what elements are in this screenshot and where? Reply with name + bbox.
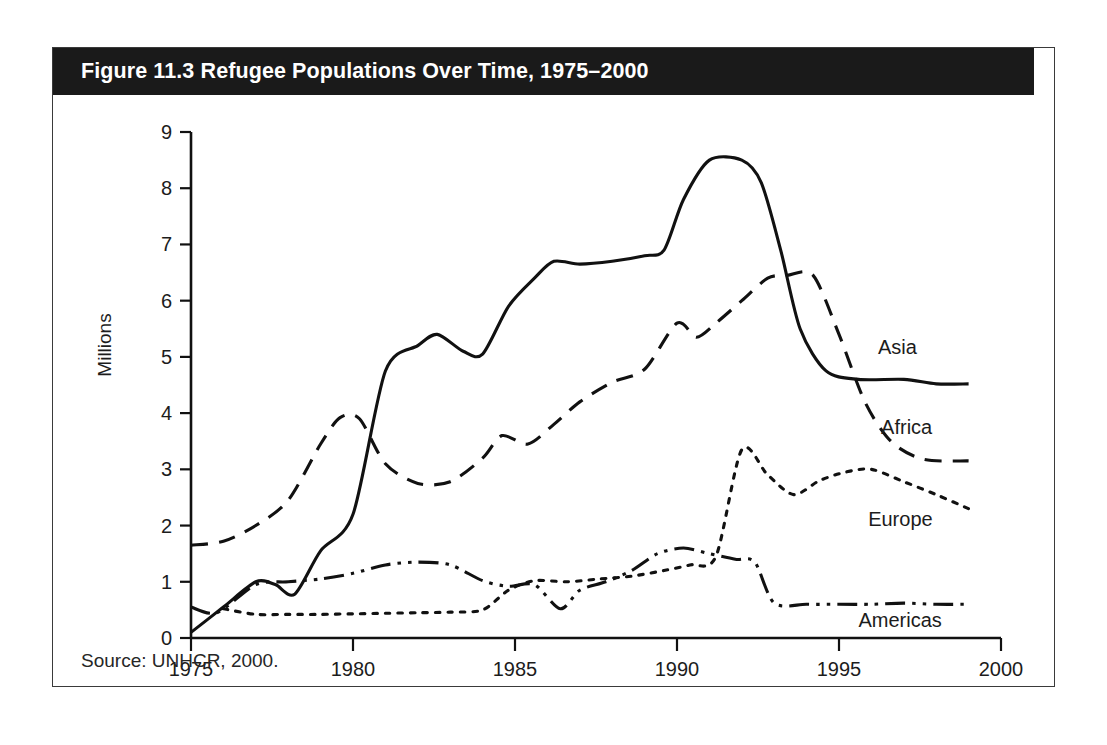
- x-tick-label: 1990: [655, 658, 700, 680]
- series-line-africa: [191, 272, 969, 546]
- chart-plot-area: 0123456789197519801985199019952000Millio…: [53, 95, 1056, 688]
- series-label-africa: Africa: [881, 416, 933, 438]
- y-tick-label: 2: [161, 515, 172, 537]
- series-line-europe: [223, 447, 968, 615]
- series-label-europe: Europe: [868, 508, 933, 530]
- axes-group: 0123456789197519801985199019952000Millio…: [94, 121, 1023, 680]
- y-tick-label: 1: [161, 571, 172, 593]
- y-tick-label: 5: [161, 346, 172, 368]
- x-tick-label: 1980: [331, 658, 376, 680]
- x-tick-label: 1995: [817, 658, 862, 680]
- y-tick-label: 8: [161, 177, 172, 199]
- series-label-americas: Americas: [858, 609, 941, 631]
- y-axis-title: Millions: [94, 313, 115, 376]
- source-note: Source: UNHCR, 2000.: [81, 650, 278, 672]
- series-group: [191, 157, 969, 633]
- figure-frame: Figure 11.3 Refugee Populations Over Tim…: [52, 47, 1055, 687]
- y-tick-label: 0: [161, 627, 172, 649]
- y-tick-label: 6: [161, 290, 172, 312]
- y-tick-label: 4: [161, 402, 172, 424]
- figure-page: Figure 11.3 Refugee Populations Over Tim…: [0, 0, 1107, 745]
- figure-title: Figure 11.3 Refugee Populations Over Tim…: [81, 59, 649, 84]
- series-label-asia: Asia: [878, 336, 918, 358]
- x-tick-label: 1985: [493, 658, 538, 680]
- y-tick-label: 3: [161, 458, 172, 480]
- series-line-asia: [191, 157, 969, 633]
- x-tick-label: 2000: [979, 658, 1024, 680]
- y-tick-label: 9: [161, 121, 172, 143]
- figure-title-bar: Figure 11.3 Refugee Populations Over Tim…: [53, 48, 1034, 95]
- y-tick-label: 7: [161, 233, 172, 255]
- refugee-populations-line-chart: 0123456789197519801985199019952000Millio…: [53, 95, 1056, 688]
